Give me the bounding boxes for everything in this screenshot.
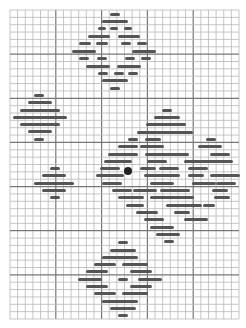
- bar: [28, 130, 52, 133]
- bar: [110, 249, 136, 252]
- bar: [126, 204, 144, 207]
- bar: [110, 13, 120, 16]
- bar: [122, 292, 148, 295]
- pattern-canvas: [0, 0, 246, 328]
- bar: [42, 174, 66, 177]
- bar: [34, 182, 74, 185]
- bar: [203, 204, 215, 207]
- bar: [144, 174, 180, 177]
- bar: [96, 42, 108, 45]
- bar: [110, 307, 136, 310]
- bar: [132, 50, 156, 53]
- bar: [79, 57, 89, 60]
- bar: [20, 109, 60, 112]
- bar: [212, 189, 228, 192]
- bar: [104, 160, 132, 163]
- bar: [125, 57, 135, 60]
- bar: [117, 65, 141, 68]
- bar: [78, 278, 102, 281]
- bar: [140, 167, 156, 170]
- bar: [128, 138, 138, 141]
- bar: [98, 27, 106, 30]
- bar: [164, 240, 174, 243]
- bar: [145, 138, 161, 141]
- bar: [98, 72, 108, 75]
- bar: [108, 153, 138, 156]
- bar: [118, 278, 128, 281]
- bar: [102, 300, 138, 303]
- bar: [13, 116, 67, 119]
- bar: [214, 196, 230, 199]
- bar: [114, 72, 124, 75]
- bar: [50, 196, 60, 199]
- bar: [102, 20, 128, 23]
- bar: [88, 35, 110, 38]
- center-dot: [124, 167, 132, 175]
- bar: [102, 182, 122, 185]
- bar: [188, 174, 204, 177]
- bar: [86, 270, 108, 273]
- bar: [128, 72, 138, 75]
- bar: [188, 167, 208, 170]
- bar: [136, 211, 158, 214]
- bar: [94, 292, 116, 295]
- bar: [159, 167, 179, 170]
- bar: [50, 167, 60, 170]
- bar: [210, 174, 240, 177]
- bar: [150, 196, 194, 199]
- bar: [100, 167, 120, 170]
- bar: [110, 87, 120, 90]
- bar: [110, 27, 118, 30]
- bar: [210, 153, 230, 156]
- bar: [133, 189, 157, 192]
- bar: [192, 182, 216, 185]
- bar: [94, 263, 116, 266]
- bar: [162, 109, 172, 112]
- bar: [102, 79, 128, 82]
- bar: [28, 101, 52, 104]
- bar: [166, 204, 202, 207]
- bar: [79, 42, 91, 45]
- bar: [96, 174, 124, 177]
- bar: [174, 211, 190, 214]
- bar: [206, 138, 216, 141]
- bar: [137, 131, 193, 134]
- bar: [118, 314, 128, 317]
- bar: [86, 65, 110, 68]
- bar: [216, 182, 236, 185]
- bar: [130, 270, 152, 273]
- bar: [124, 27, 132, 30]
- bar: [118, 35, 140, 38]
- bar: [118, 241, 128, 244]
- bar: [150, 226, 174, 229]
- bar: [20, 123, 60, 126]
- bar: [141, 57, 151, 60]
- bar: [146, 123, 186, 126]
- bar: [144, 218, 164, 221]
- bar: [137, 42, 147, 45]
- bar: [154, 116, 180, 119]
- bar: [150, 182, 174, 185]
- bar: [140, 145, 164, 148]
- bar: [118, 145, 138, 148]
- bar: [145, 153, 189, 156]
- bar: [97, 57, 107, 60]
- bar: [184, 218, 208, 221]
- bar: [112, 189, 132, 192]
- bar: [160, 189, 190, 192]
- bar: [198, 145, 222, 148]
- bar: [42, 189, 66, 192]
- bar: [121, 42, 131, 45]
- bar: [213, 160, 233, 163]
- bar: [102, 256, 138, 259]
- bar: [34, 138, 44, 141]
- bar: [34, 94, 44, 97]
- bar: [130, 285, 152, 288]
- bar: [72, 50, 96, 53]
- bar: [160, 233, 180, 236]
- bar: [147, 160, 167, 163]
- bar: [138, 278, 162, 281]
- bar: [118, 196, 144, 199]
- bar: [86, 285, 108, 288]
- bar: [122, 263, 148, 266]
